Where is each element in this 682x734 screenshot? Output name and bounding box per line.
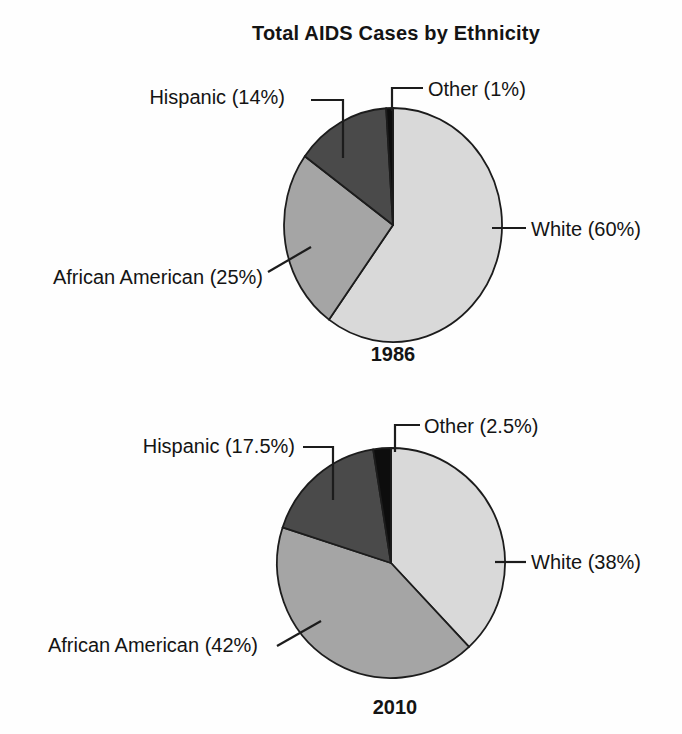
label-white-1986: White (60%) (531, 219, 641, 239)
label-other-1986: Other (1%) (428, 79, 526, 99)
figure-total-aids-cases-by-ethnicity: Total AIDS Cases by Ethnicity Hispanic (… (0, 0, 682, 734)
label-african-american-2010: African American (42%) (48, 635, 258, 655)
label-hispanic-2010: Hispanic (17.5%) (143, 436, 295, 456)
pie-charts-canvas (0, 0, 682, 734)
year-label-2010: 2010 (345, 696, 445, 718)
pie-1986 (284, 108, 502, 342)
label-african-american-1986: African American (25%) (53, 267, 263, 287)
year-label-1986: 1986 (343, 343, 443, 365)
label-white-2010: White (38%) (531, 552, 641, 572)
label-hispanic-1986: Hispanic (14%) (149, 87, 285, 107)
label-other-2010: Other (2.5%) (424, 416, 538, 436)
pie-2010 (277, 448, 505, 678)
